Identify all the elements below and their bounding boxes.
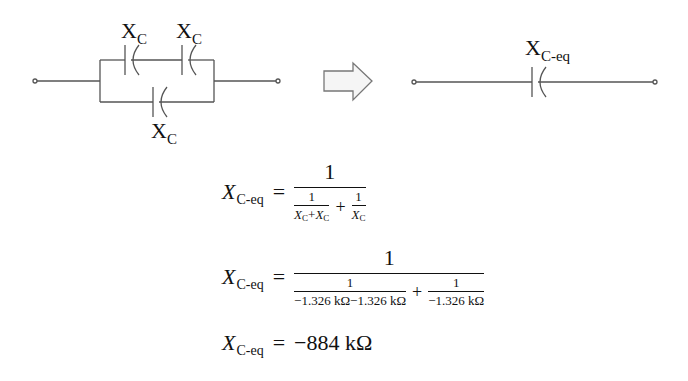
sub-fraction-series: 1 XC+XC xyxy=(294,190,329,224)
label-equivalent-cap: XC-eq xyxy=(525,35,571,64)
lhs-subscript: C-eq xyxy=(236,343,263,359)
plus-sign: + xyxy=(412,282,422,303)
main-fraction: 1 1 −1.326 kΩ−1.326 kΩ + 1 −1.326 kΩ xyxy=(294,246,484,308)
left-terminal xyxy=(33,79,37,83)
original-circuit xyxy=(33,45,280,117)
sub-denominator: −1.326 kΩ−1.326 kΩ xyxy=(294,292,406,308)
transform-arrow-icon xyxy=(324,63,372,100)
main-fraction: 1 1 XC+XC + 1 XC xyxy=(294,160,365,224)
equals-sign: = xyxy=(273,330,285,356)
equation-symbolic: XC-eq = 1 1 XC+XC + 1 XC xyxy=(222,160,366,224)
sub-fraction-single: 1 −1.326 kΩ xyxy=(428,276,484,308)
lhs-variable: X xyxy=(222,179,235,205)
fraction-denominator: 1 XC+XC + 1 XC xyxy=(294,188,365,224)
sub-numerator: 1 xyxy=(453,276,460,291)
sub-numerator: 1 xyxy=(308,190,315,205)
label-top-right-cap: XC xyxy=(176,18,202,47)
sub-numerator: 1 xyxy=(347,276,354,291)
equals-sign: = xyxy=(273,179,285,205)
eq-right-terminal xyxy=(653,80,657,84)
fraction-denominator: 1 −1.326 kΩ−1.326 kΩ + 1 −1.326 kΩ xyxy=(294,274,484,308)
sub-numerator: 1 xyxy=(355,190,362,205)
fraction-numerator: 1 xyxy=(384,246,395,273)
equals-sign: = xyxy=(273,264,285,290)
sub-fraction-series: 1 −1.326 kΩ−1.326 kΩ xyxy=(294,276,406,308)
label-top-left-cap: XC xyxy=(121,18,147,47)
sub-denominator: XC+XC xyxy=(294,206,329,224)
circuit-diagram: XC XC XC XC-eq xyxy=(0,0,688,160)
sub-denominator: XC xyxy=(352,206,366,224)
equation-lhs: XC-eq xyxy=(222,330,264,356)
result-value: −884 kΩ xyxy=(294,330,372,356)
label-bottom-cap: XC xyxy=(151,118,177,147)
eq-left-terminal xyxy=(412,80,416,84)
sub-fraction-single: 1 XC xyxy=(352,190,366,224)
lhs-variable: X xyxy=(222,264,235,290)
lhs-subscript: C-eq xyxy=(236,277,263,293)
lhs-subscript: C-eq xyxy=(236,192,263,208)
right-terminal xyxy=(276,79,280,83)
sub-denominator: −1.326 kΩ xyxy=(428,292,484,308)
equation-lhs: XC-eq xyxy=(222,179,264,205)
lhs-variable: X xyxy=(222,330,235,356)
plus-sign: + xyxy=(335,197,345,218)
equation-numeric: XC-eq = 1 1 −1.326 kΩ−1.326 kΩ + 1 −1.32… xyxy=(222,246,484,308)
equivalent-circuit xyxy=(412,67,657,97)
fraction-numerator: 1 xyxy=(324,160,335,187)
equation-result: XC-eq = −884 kΩ xyxy=(222,330,372,356)
equation-lhs: XC-eq xyxy=(222,264,264,290)
